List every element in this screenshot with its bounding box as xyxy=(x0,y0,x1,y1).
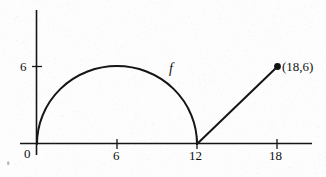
y-axis-tick-label-6: 6 xyxy=(20,60,27,73)
line-segment-curve xyxy=(197,67,277,144)
endpoint-coordinate-label: (18,6) xyxy=(282,60,313,73)
x-axis-tick-label-12: 12 xyxy=(189,149,202,162)
x-axis-tick-label-18: 18 xyxy=(269,149,282,162)
x-axis-tick-label-6: 6 xyxy=(113,149,120,162)
function-graph-figure: 6 0 6 12 18 f (18,6) xyxy=(0,0,326,177)
endpoint-dot-18-6 xyxy=(274,63,281,70)
scan-artifact-speck xyxy=(7,162,9,165)
semicircle-curve xyxy=(37,66,197,144)
curve-label-f: f xyxy=(169,62,173,76)
x-axis-tick-label-0: 0 xyxy=(24,147,31,160)
